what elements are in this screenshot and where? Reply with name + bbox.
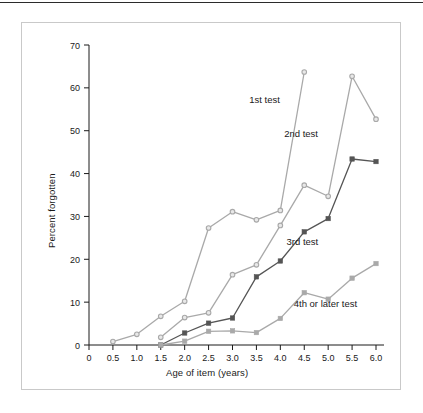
y-tick-label: 40 [70, 169, 80, 179]
data-point-marker [230, 316, 234, 320]
y-tick-label: 0 [75, 341, 80, 351]
data-point-marker [159, 343, 163, 347]
y-tick-label: 20 [70, 255, 80, 265]
y-tick-label: 10 [70, 298, 80, 308]
x-tick-label: 2.5 [202, 353, 215, 363]
data-point-marker [182, 299, 187, 304]
data-point-marker [302, 230, 306, 234]
figure-page: 01020304050607000.51.01.52.02.53.03.54.0… [0, 0, 423, 413]
data-point-marker [206, 311, 211, 316]
data-point-marker [374, 159, 378, 163]
data-point-marker [278, 208, 283, 213]
data-point-marker [374, 261, 378, 265]
series-label-1: 1st test [249, 94, 280, 105]
x-axis-title: Age of item (years) [166, 367, 248, 378]
data-point-marker [302, 183, 307, 188]
data-point-marker [254, 330, 258, 334]
data-point-marker [182, 315, 187, 320]
series-3 [159, 157, 379, 347]
data-point-marker [135, 332, 140, 337]
data-point-marker [206, 321, 210, 325]
data-point-marker [326, 194, 331, 199]
data-point-marker [278, 316, 282, 320]
x-axis-ticks: 00.51.01.52.02.53.03.54.04.55.05.56.0 [86, 345, 382, 363]
x-tick-label: 2.0 [178, 353, 191, 363]
y-tick-label: 60 [70, 83, 80, 93]
data-point-marker [350, 157, 354, 161]
data-point-marker [206, 226, 211, 231]
x-tick-label: 0 [86, 353, 91, 363]
x-tick-label: 5.0 [322, 353, 335, 363]
data-point-marker [254, 263, 259, 268]
data-point-marker [111, 339, 116, 344]
data-point-marker [158, 335, 163, 340]
data-point-marker [230, 272, 235, 277]
series-1 [111, 70, 307, 344]
x-tick-label: 1.5 [154, 353, 167, 363]
y-axis-ticks: 010203040506070 [70, 41, 89, 351]
x-tick-label: 0.5 [107, 353, 120, 363]
series-label-4: 4th or later test [294, 298, 358, 309]
y-tick-label: 50 [70, 126, 80, 136]
x-tick-label: 5.5 [346, 353, 359, 363]
data-point-marker [374, 117, 379, 122]
data-point-marker [302, 291, 306, 295]
series-line [113, 72, 304, 342]
x-tick-label: 1.0 [131, 353, 144, 363]
x-tick-label: 3.5 [250, 353, 263, 363]
x-tick-label: 3.0 [226, 353, 239, 363]
series-line [161, 159, 376, 345]
data-point-marker [350, 74, 355, 79]
data-point-marker [254, 218, 259, 223]
series-label-2: 2nd test [284, 128, 318, 139]
data-point-marker [326, 216, 330, 220]
data-point-marker [302, 70, 307, 75]
line-chart-plot: 01020304050607000.51.01.52.02.53.03.54.0… [22, 23, 402, 391]
x-tick-label: 4.5 [298, 353, 311, 363]
data-point-marker [230, 329, 234, 333]
x-tick-label: 6.0 [370, 353, 383, 363]
data-point-marker [182, 339, 186, 343]
series-label-3: 3rd test [287, 236, 319, 247]
y-tick-label: 30 [70, 212, 80, 222]
data-point-marker [350, 276, 354, 280]
x-tick-label: 4.0 [274, 353, 287, 363]
data-point-marker [158, 314, 163, 319]
figure-border: 01020304050607000.51.01.52.02.53.03.54.0… [21, 22, 401, 390]
data-point-marker [182, 331, 186, 335]
y-tick-label: 70 [70, 41, 80, 51]
data-point-marker [278, 259, 282, 263]
data-point-marker [278, 223, 283, 228]
top-rule-divider [0, 2, 423, 3]
data-point-marker [230, 209, 235, 214]
data-point-marker [206, 329, 210, 333]
y-axis-title: Percent forgotten [46, 173, 57, 248]
data-point-marker [254, 275, 258, 279]
